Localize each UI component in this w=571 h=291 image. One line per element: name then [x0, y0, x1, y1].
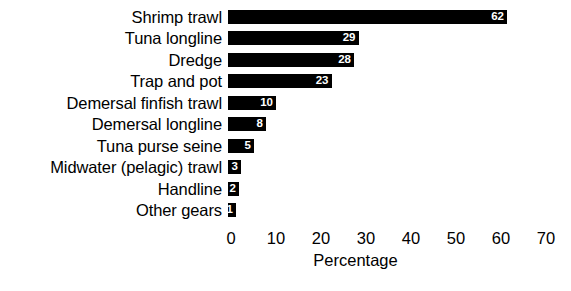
- bar-value-label: 10: [260, 97, 273, 109]
- x-tick-label: 30: [357, 228, 375, 248]
- bar-row: Tuna longline 29: [0, 28, 571, 50]
- bar-row: Shrimp trawl 62: [0, 6, 571, 28]
- bar-value-label: 2: [230, 183, 236, 195]
- category-label: Other gears: [136, 202, 222, 219]
- bar-container: 2: [228, 182, 239, 196]
- category-label: Handline: [158, 181, 222, 198]
- bar-value-label: 3: [232, 162, 238, 174]
- bar: 10: [228, 96, 276, 110]
- x-tick-label: 0: [226, 228, 235, 248]
- bar-chart: Shrimp trawl 62 Tuna longline 29 Dredge …: [0, 0, 571, 291]
- bar-container: 10: [228, 96, 276, 110]
- bar-container: 28: [228, 53, 354, 67]
- bar: 1: [228, 203, 236, 217]
- bar-container: 23: [228, 74, 332, 88]
- bar: 62: [228, 10, 507, 24]
- category-label: Tuna longline: [125, 30, 222, 47]
- bar: 5: [228, 139, 254, 153]
- bar-row: Handline 2: [0, 178, 571, 200]
- x-tick-label: 50: [447, 228, 465, 248]
- bar-row: Midwater (pelagic) trawl 3: [0, 157, 571, 179]
- bar-container: 62: [228, 10, 507, 24]
- category-label: Demersal longline: [92, 116, 222, 133]
- bar: 3: [228, 160, 241, 174]
- bar-value-label: 28: [338, 54, 351, 66]
- x-tick-label: 10: [267, 228, 285, 248]
- category-label: Shrimp trawl: [132, 9, 223, 26]
- bar-value-label: 5: [245, 140, 251, 152]
- x-tick-label: 70: [537, 228, 555, 248]
- bar-row: Trap and pot 23: [0, 71, 571, 93]
- bar-value-label: 62: [491, 11, 504, 23]
- category-label: Dredge: [168, 52, 222, 69]
- x-tick-label: 60: [492, 228, 510, 248]
- bar-container: 5: [228, 139, 254, 153]
- bar-container: 1: [228, 203, 236, 217]
- category-label: Tuna purse seine: [97, 138, 222, 155]
- bar-row: Other gears 1: [0, 200, 571, 222]
- bar-row: Demersal finfish trawl 10: [0, 92, 571, 114]
- x-axis-title-text: Percentage: [313, 250, 397, 270]
- category-label: Trap and pot: [130, 73, 222, 90]
- bar-value-label: 8: [257, 119, 263, 131]
- bar-row: Dredge 28: [0, 49, 571, 71]
- bar-container: 29: [228, 31, 359, 45]
- bar: 23: [228, 74, 332, 88]
- bar: 29: [228, 31, 359, 45]
- bar-value-label: 1: [227, 205, 233, 217]
- bar-value-label: 23: [316, 76, 329, 88]
- bar-row: Tuna purse seine 5: [0, 135, 571, 157]
- bar-container: 3: [228, 160, 241, 174]
- bar: 8: [228, 117, 266, 131]
- x-axis-title: Percentage: [0, 250, 571, 270]
- x-axis: 0 10 20 30 40 50 60 70: [0, 228, 571, 250]
- category-label: Midwater (pelagic) trawl: [50, 159, 222, 176]
- x-tick-label: 40: [402, 228, 420, 248]
- category-label: Demersal finfish trawl: [66, 95, 222, 112]
- bar: 2: [228, 182, 239, 196]
- bar-container: 8: [228, 117, 266, 131]
- bar: 28: [228, 53, 354, 67]
- bar-value-label: 29: [343, 33, 356, 45]
- bar-row: Demersal longline 8: [0, 114, 571, 136]
- x-tick-label: 20: [312, 228, 330, 248]
